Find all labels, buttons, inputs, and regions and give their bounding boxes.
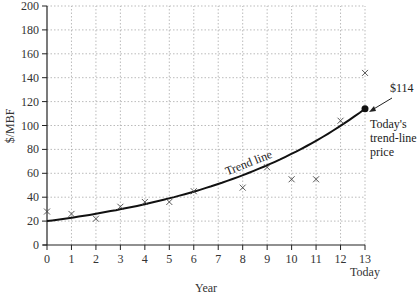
y-tick-label: 80 [27,142,39,156]
y-tick-label: 20 [27,214,39,228]
y-axis-ticks: 020406080100120140160180200 [21,0,47,252]
y-tick-label: 120 [21,95,39,109]
price-value-label: $114 [390,81,414,95]
y-tick-label: 100 [21,119,39,133]
x-tick-label: 10 [286,252,298,266]
x-tick-label: 7 [215,252,221,266]
x-tick-label: 4 [142,252,148,266]
price-arrow-head [369,106,376,112]
x-axis-title: Year [195,281,217,295]
price-note-line1: Today's [370,117,407,131]
y-tick-label: 140 [21,71,39,85]
trend-line-chart: 020406080100120140160180200 012345678910… [0,0,417,297]
x-tick-label: 9 [264,252,270,266]
x-tick-label: 12 [335,252,347,266]
data-point-x-marker [362,70,368,76]
gridlines [47,6,365,245]
price-arrow [372,98,392,110]
y-axis-title: $/MBF [3,108,17,143]
price-note-line3: price [370,145,394,159]
today-label: Today [350,265,380,279]
x-tick-label: 3 [117,252,123,266]
x-tick-label: 6 [191,252,197,266]
y-tick-label: 180 [21,23,39,37]
data-points [44,70,368,222]
x-tick-label: 8 [240,252,246,266]
y-tick-label: 40 [27,190,39,204]
y-tick-label: 60 [27,166,39,180]
y-tick-label: 200 [21,0,39,13]
data-point-x-marker [166,199,172,205]
x-tick-label: 0 [44,252,50,266]
today-trend-point [362,105,369,112]
x-tick-label: 11 [310,252,322,266]
price-note-line2: trend-line [370,131,417,145]
data-point-x-marker [240,185,246,191]
x-tick-label: 2 [93,252,99,266]
x-tick-label: 5 [166,252,172,266]
x-tick-label: 1 [68,252,74,266]
y-tick-label: 0 [33,238,39,252]
x-tick-label: 13 [359,252,371,266]
y-tick-label: 160 [21,47,39,61]
x-axis-ticks: 012345678910111213 [44,245,371,266]
